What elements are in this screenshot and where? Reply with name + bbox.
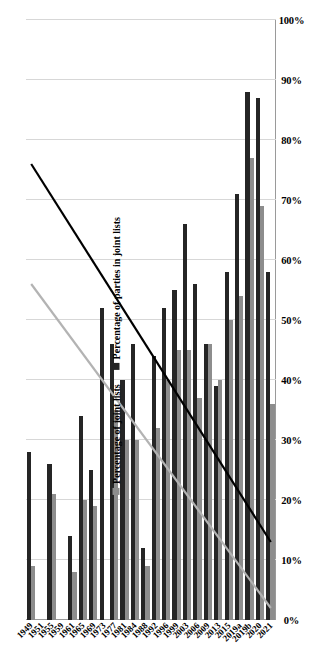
value-tick-label: 10% <box>281 555 301 566</box>
trend-parties-in-joint-lists <box>31 164 271 542</box>
value-tick-label: 60% <box>281 255 301 266</box>
legend-swatch <box>113 363 120 370</box>
value-tick-label: 40% <box>281 375 301 386</box>
legend-swatch <box>113 488 120 495</box>
legend-label: Percentage of joint lists <box>111 384 122 484</box>
trend-joint-lists <box>31 284 271 608</box>
value-tick-label: 0% <box>284 615 299 626</box>
value-tick-label: 100% <box>279 15 304 26</box>
chart-canvas: Percentage of joint listsPercentage of p… <box>4 0 312 656</box>
legend-label: Percentage of parties in joint lists <box>111 217 122 359</box>
value-tick-label: 70% <box>281 195 301 206</box>
plot-area <box>26 20 276 620</box>
value-tick-label: 30% <box>281 435 301 446</box>
chart-legend: Percentage of joint listsPercentage of p… <box>111 217 122 495</box>
trendline-layer <box>26 20 276 620</box>
value-tick-label: 80% <box>281 135 301 146</box>
value-tick-label: 90% <box>281 75 301 86</box>
legend-entry: Percentage of parties in joint lists <box>111 217 122 370</box>
legend-entry: Percentage of joint lists <box>111 384 122 495</box>
value-tick-label: 50% <box>281 315 301 326</box>
value-tick-label: 20% <box>281 495 301 506</box>
